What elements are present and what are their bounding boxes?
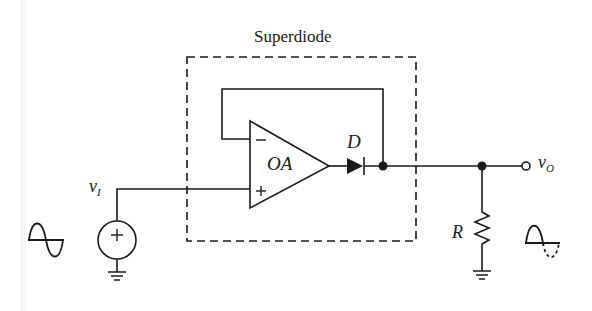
output-voltage-label: vO [538,152,554,173]
input-wire [117,189,250,221]
source-plus-icon [111,229,123,241]
input-voltage-label: vI [89,176,101,197]
output-halfwave-icon [525,226,560,258]
circuit-diagram: Superdiode OA D R vI vO [0,0,592,311]
superdiode-boundary-box [187,57,416,241]
diode-icon [347,158,363,174]
input-sine-wave-icon [28,224,64,257]
opamp-label: OA [267,153,292,175]
junction-node-diode [379,162,388,171]
resistor-label: R [452,222,463,243]
ground-icon-source [108,272,126,280]
superdiode-title: Superdiode [254,27,331,47]
junction-node-output [478,162,487,171]
output-terminal [522,162,530,170]
opamp-plus-icon [256,186,266,196]
ground-icon-resistor [473,271,491,279]
resistor-icon [475,166,489,271]
diode-label: D [347,131,361,153]
feedback-wire [222,89,383,166]
